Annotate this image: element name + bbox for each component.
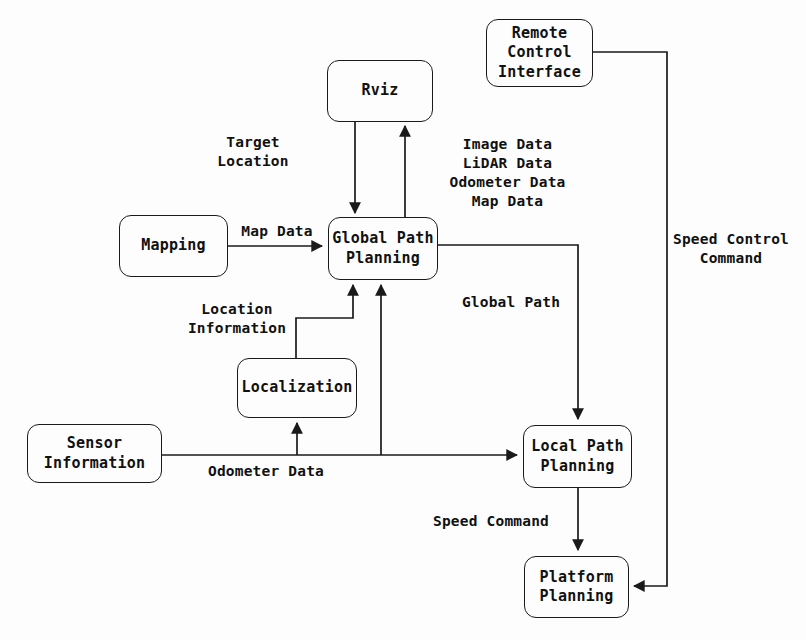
node-sensor-information-label: Sensor Information	[44, 434, 146, 472]
node-platform-planning-label: Platform Planning	[540, 568, 614, 606]
edge-label-speed-control-command: Speed Control Command	[666, 230, 796, 268]
node-local-path-planning-label: Local Path Planning	[531, 437, 623, 475]
diagram-canvas: Rviz Remote Control Interface Mapping Gl…	[0, 0, 806, 640]
edge-label-speed-command: Speed Command	[416, 512, 566, 531]
edge-label-map-data: Map Data	[232, 222, 322, 241]
edge-label-global-path: Global Path	[459, 293, 563, 312]
node-local-path-planning[interactable]: Local Path Planning	[523, 425, 632, 488]
wire-localization-to-global	[296, 285, 353, 358]
wire-remote-to-platform	[593, 52, 667, 586]
node-remote-control-interface-label: Remote Control Interface	[498, 24, 581, 82]
node-rviz[interactable]: Rviz	[327, 60, 433, 122]
edge-label-odometer-data: Odometer Data	[196, 462, 336, 481]
node-global-path-planning-label: Global Path Planning	[332, 229, 434, 267]
node-rviz-label: Rviz	[362, 81, 399, 100]
node-global-path-planning[interactable]: Global Path Planning	[328, 217, 438, 280]
node-remote-control-interface[interactable]: Remote Control Interface	[486, 19, 593, 87]
node-mapping[interactable]: Mapping	[119, 215, 228, 277]
edge-label-location-information: Location Information	[178, 300, 296, 338]
node-platform-planning[interactable]: Platform Planning	[524, 556, 629, 618]
node-sensor-information[interactable]: Sensor Information	[27, 424, 162, 483]
wire-global-to-local	[438, 245, 578, 419]
edge-label-sensor-streams: Image Data LiDAR Data Odometer Data Map …	[430, 135, 585, 212]
node-localization[interactable]: Localization	[237, 358, 357, 418]
node-mapping-label: Mapping	[141, 236, 206, 255]
node-localization-label: Localization	[242, 378, 353, 397]
edge-label-target-location: Target Location	[188, 133, 318, 171]
